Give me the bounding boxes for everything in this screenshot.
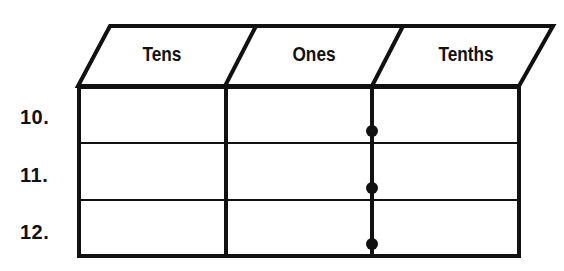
row-label-11: 11.: [20, 164, 62, 186]
place-value-chart: Tens Ones Tenths 10. 11. 12.: [0, 0, 564, 271]
row-label-12: 12.: [20, 221, 62, 243]
row-label-10: 10.: [20, 106, 62, 128]
column-header-ones: Ones: [281, 42, 347, 66]
cell-row-11-tenths[interactable]: [374, 145, 517, 199]
cell-row-12-tens[interactable]: [81, 202, 224, 254]
column-header-tens: Tens: [129, 42, 195, 66]
cell-row-12-tenths[interactable]: [374, 202, 517, 254]
cell-row-11-tens[interactable]: [81, 145, 224, 199]
cell-row-10-tenths[interactable]: [374, 89, 517, 142]
cell-row-12-ones[interactable]: [228, 202, 370, 254]
cell-row-11-ones[interactable]: [228, 145, 370, 199]
column-header-tenths: Tenths: [429, 42, 503, 66]
cell-row-10-ones[interactable]: [228, 89, 370, 142]
cell-row-10-tens[interactable]: [81, 89, 224, 142]
